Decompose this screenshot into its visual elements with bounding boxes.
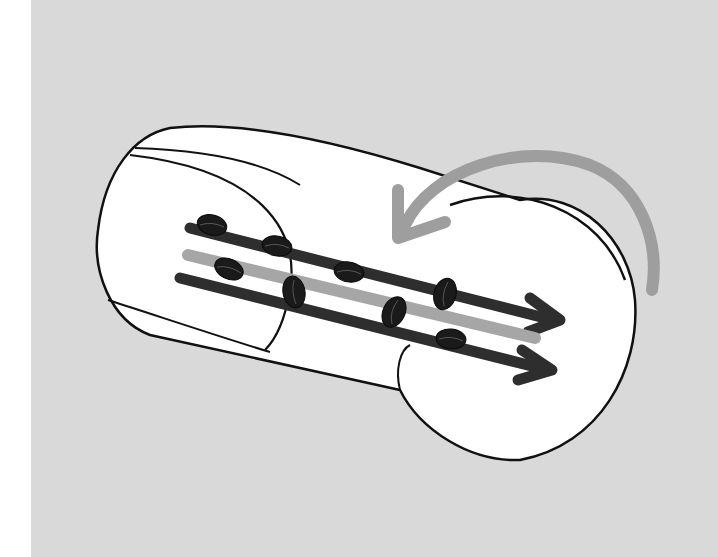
drum-illustration [0,0,718,557]
drum-diagram [0,0,718,557]
